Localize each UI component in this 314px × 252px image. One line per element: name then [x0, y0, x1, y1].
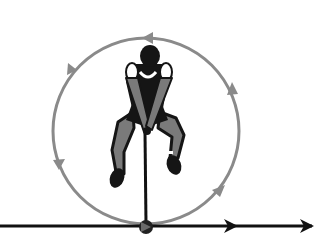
athlete-head — [140, 45, 160, 67]
athlete-hands — [143, 127, 151, 135]
athlete-sock — [168, 151, 173, 154]
hammer-throw-diagram — [0, 0, 314, 252]
athlete-right-shoe — [164, 153, 184, 177]
release-line — [0, 219, 314, 233]
arrow-icon-lower-left — [53, 159, 65, 170]
arrow-icon-top — [142, 32, 153, 44]
diagram-canvas — [0, 0, 314, 252]
hammer-wire — [145, 133, 146, 224]
